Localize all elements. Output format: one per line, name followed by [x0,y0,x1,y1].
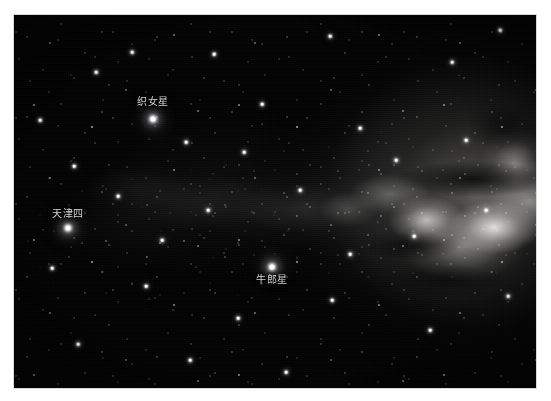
bright-star [465,139,468,142]
star-label-altair: 牛郎星 [256,274,288,286]
bright-star [117,195,120,198]
bright-star [451,61,454,64]
bright-star [499,29,502,32]
bright-star [261,103,264,106]
bright-star [285,371,288,374]
bright-star [95,71,98,74]
bright-star [429,329,432,332]
dust-lane-layer [14,15,536,388]
bright-star [413,235,416,238]
bright-star [485,209,488,212]
bright-star [331,299,334,302]
star-vega [151,117,156,122]
vignette-layer [14,15,536,388]
bright-star [329,35,332,38]
bright-star [189,359,192,362]
bright-star [207,209,210,212]
bright-star [359,127,362,130]
sky-background-layer [14,15,536,388]
milky-way-core-layer [14,15,536,388]
bright-star [161,239,164,242]
bright-star [349,253,352,256]
star-label-deneb: 天津四 [52,208,84,220]
bright-star [185,141,188,144]
star-altair [270,265,275,270]
starfield-medium-layer [14,15,536,388]
bright-star [145,285,148,288]
bright-star [51,267,54,270]
bright-star [299,189,302,192]
star-deneb [66,226,71,231]
starfield-galactic-plane [14,15,536,388]
bright-star [77,343,80,346]
bright-star [73,165,76,168]
screenshot-root: 织女星天津四牛郎星 [0,0,551,401]
star-label-vega: 织女星 [137,96,169,108]
bright-star [131,51,134,54]
night-sky-photo: 织女星天津四牛郎星 [14,15,536,388]
bright-star [237,317,240,320]
film-grain-layer [14,15,536,388]
starfield-left-cloud [14,15,536,388]
starfield-fine-layer-2 [14,15,536,388]
bright-star [213,53,216,56]
bright-star [507,295,510,298]
bright-star [395,159,398,162]
bright-star [243,151,246,154]
starfield-fine-layer [14,15,536,388]
milky-way-band-layer [14,15,536,388]
bright-star [39,119,42,122]
